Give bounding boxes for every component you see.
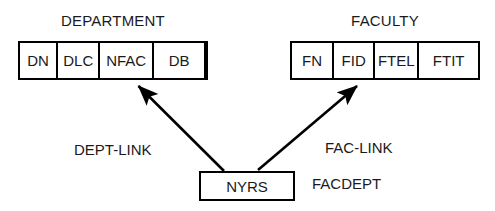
dept-link-connector (139, 86, 225, 171)
fac-link-connector (258, 86, 357, 170)
nyrs-record-box: NYRS (199, 171, 295, 201)
nyrs-record-label: NYRS (226, 178, 268, 195)
entity-link-diagram: DEPARTMENT DN DLC NFAC DB FACULTY FN FID… (0, 0, 495, 211)
